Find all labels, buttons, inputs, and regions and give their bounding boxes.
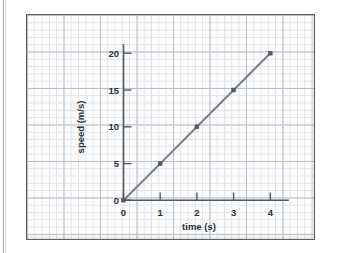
y-tick-label-0: 0 bbox=[114, 195, 119, 206]
x-tick-label-4: 4 bbox=[268, 207, 274, 218]
graph-paper-plate: 20 15 10 5 0 0 1 2 3 4 time (s) speed (m… bbox=[26, 14, 315, 240]
page-edge-rule bbox=[3, 0, 4, 253]
page-edge-rule-secondary bbox=[5, 0, 6, 253]
data-point-2 bbox=[195, 125, 199, 129]
x-tick-label-2: 2 bbox=[194, 207, 199, 218]
x-tick-label-3: 3 bbox=[231, 207, 236, 218]
data-point-1 bbox=[158, 162, 162, 166]
y-tick-label-10: 10 bbox=[108, 121, 119, 132]
x-tick-label-0: 0 bbox=[121, 207, 126, 218]
y-tick-label-5: 5 bbox=[114, 158, 120, 169]
data-point-3 bbox=[232, 88, 236, 92]
data-point-0 bbox=[122, 198, 126, 202]
y-tick-label-15: 15 bbox=[108, 85, 119, 96]
data-point-4 bbox=[268, 51, 272, 55]
speed-time-chart: 20 15 10 5 0 0 1 2 3 4 time (s) speed (m… bbox=[27, 15, 315, 240]
y-axis-title: speed (m/s) bbox=[75, 101, 86, 154]
screenshot-root: 20 15 10 5 0 0 1 2 3 4 time (s) speed (m… bbox=[0, 0, 341, 253]
x-tick-label-1: 1 bbox=[158, 207, 164, 218]
x-axis-title: time (s) bbox=[182, 221, 216, 232]
y-tick-label-20: 20 bbox=[108, 48, 119, 59]
